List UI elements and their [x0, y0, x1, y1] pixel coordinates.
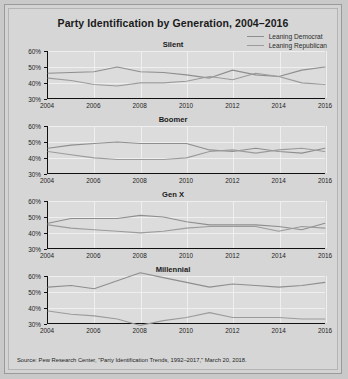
series-layer: [48, 201, 325, 249]
y-tick-mark: [44, 51, 47, 52]
gridline-vertical: [326, 51, 327, 98]
plot-area: 30%40%50%60%2004200620082010201220142016: [47, 276, 325, 324]
x-axis-label: 2004: [40, 327, 54, 334]
panel-title: Boomer: [9, 115, 337, 124]
y-axis-label: 60%: [28, 48, 41, 55]
x-axis-label: 2012: [225, 252, 239, 259]
plot-canvas: [47, 201, 325, 249]
x-axis-label: 2012: [225, 327, 239, 334]
x-axis-label: 2010: [179, 177, 193, 184]
panel-millennial: Millennial30%40%50%60%200420062008201020…: [9, 265, 337, 335]
x-axis-label: 2010: [179, 252, 193, 259]
y-tick-mark: [44, 308, 47, 309]
x-axis-label: 2016: [318, 252, 332, 259]
x-axis-label: 2014: [272, 102, 286, 109]
gridline-vertical: [326, 201, 327, 248]
series-line-leaning-republican: [48, 148, 325, 159]
panel-title: Silent: [9, 40, 337, 49]
y-tick-mark: [44, 201, 47, 202]
y-axis-label: 50%: [28, 64, 41, 71]
series-line-leaning-democrat: [48, 67, 325, 78]
x-axis-label: 2010: [179, 102, 193, 109]
chart-title: Party Identification by Generation, 2004…: [9, 17, 337, 29]
y-tick-mark: [44, 158, 47, 159]
x-axis-label: 2004: [40, 252, 54, 259]
y-tick-mark: [44, 83, 47, 84]
y-tick-mark: [44, 99, 47, 100]
y-tick-mark: [44, 233, 47, 234]
chart-inner-frame: Party Identification by Generation, 2004…: [8, 8, 338, 370]
y-tick-mark: [44, 67, 47, 68]
y-axis-label: 50%: [28, 139, 41, 146]
x-axis-label: 2004: [40, 102, 54, 109]
y-axis-label: 50%: [28, 289, 41, 296]
x-axis-label: 2016: [318, 327, 332, 334]
plot-canvas: [47, 126, 325, 174]
plot-area: 30%40%50%60%2004200620082010201220142016: [47, 51, 325, 99]
x-axis-label: 2014: [272, 327, 286, 334]
x-axis-label: 2006: [86, 252, 100, 259]
legend-swatch-democrat-icon: [247, 36, 264, 37]
y-axis-label: 40%: [28, 80, 41, 87]
plot-canvas: [47, 276, 325, 324]
x-axis-label: 2014: [272, 252, 286, 259]
panel-boomer: Boomer30%40%50%60%2004200620082010201220…: [9, 115, 337, 185]
legend-label-democrat: Leaning Democrat: [269, 33, 323, 40]
y-axis-label: 60%: [28, 123, 41, 130]
chart-figure: Party Identification by Generation, 2004…: [4, 4, 342, 374]
y-tick-mark: [44, 142, 47, 143]
x-axis-label: 2004: [40, 177, 54, 184]
series-line-leaning-democrat: [48, 142, 325, 153]
x-axis-label: 2008: [133, 102, 147, 109]
y-tick-mark: [44, 217, 47, 218]
y-axis-label: 60%: [28, 273, 41, 280]
x-axis-label: 2016: [318, 177, 332, 184]
y-tick-mark: [44, 126, 47, 127]
plot-canvas: [47, 51, 325, 99]
series-layer: [48, 51, 325, 99]
x-axis-label: 2012: [225, 102, 239, 109]
x-axis-label: 2012: [225, 177, 239, 184]
x-axis-label: 2006: [86, 177, 100, 184]
y-tick-mark: [44, 292, 47, 293]
y-tick-mark: [44, 324, 47, 325]
y-axis-label: 40%: [28, 230, 41, 237]
series-line-leaning-democrat: [48, 273, 325, 289]
y-axis-label: 60%: [28, 198, 41, 205]
panel-silent: Silent30%40%50%60%2004200620082010201220…: [9, 40, 337, 110]
plot-area: 30%40%50%60%2004200620082010201220142016: [47, 201, 325, 249]
plot-area: 30%40%50%60%2004200620082010201220142016: [47, 126, 325, 174]
x-axis-label: 2016: [318, 102, 332, 109]
y-tick-mark: [44, 249, 47, 250]
y-tick-mark: [44, 174, 47, 175]
gridline-vertical: [326, 276, 327, 323]
series-layer: [48, 126, 325, 174]
y-axis-label: 40%: [28, 155, 41, 162]
source-note: Source: Pew Research Center, "Party Iden…: [17, 357, 247, 363]
series-line-leaning-republican: [48, 311, 325, 325]
x-axis-label: 2010: [179, 327, 193, 334]
series-layer: [48, 276, 325, 324]
gridline-vertical: [326, 126, 327, 173]
x-axis-label: 2006: [86, 102, 100, 109]
x-axis-label: 2008: [133, 252, 147, 259]
y-axis-label: 50%: [28, 214, 41, 221]
x-axis-label: 2008: [133, 327, 147, 334]
panel-title: Gen X: [9, 190, 337, 199]
series-line-leaning-republican: [48, 225, 325, 233]
y-tick-mark: [44, 276, 47, 277]
x-axis-label: 2014: [272, 177, 286, 184]
x-axis-label: 2006: [86, 327, 100, 334]
y-axis-label: 40%: [28, 305, 41, 312]
series-line-leaning-democrat: [48, 215, 325, 229]
panel-gen-x: Gen X30%40%50%60%20042006200820102012201…: [9, 190, 337, 260]
panel-title: Millennial: [9, 265, 337, 274]
x-axis-label: 2008: [133, 177, 147, 184]
